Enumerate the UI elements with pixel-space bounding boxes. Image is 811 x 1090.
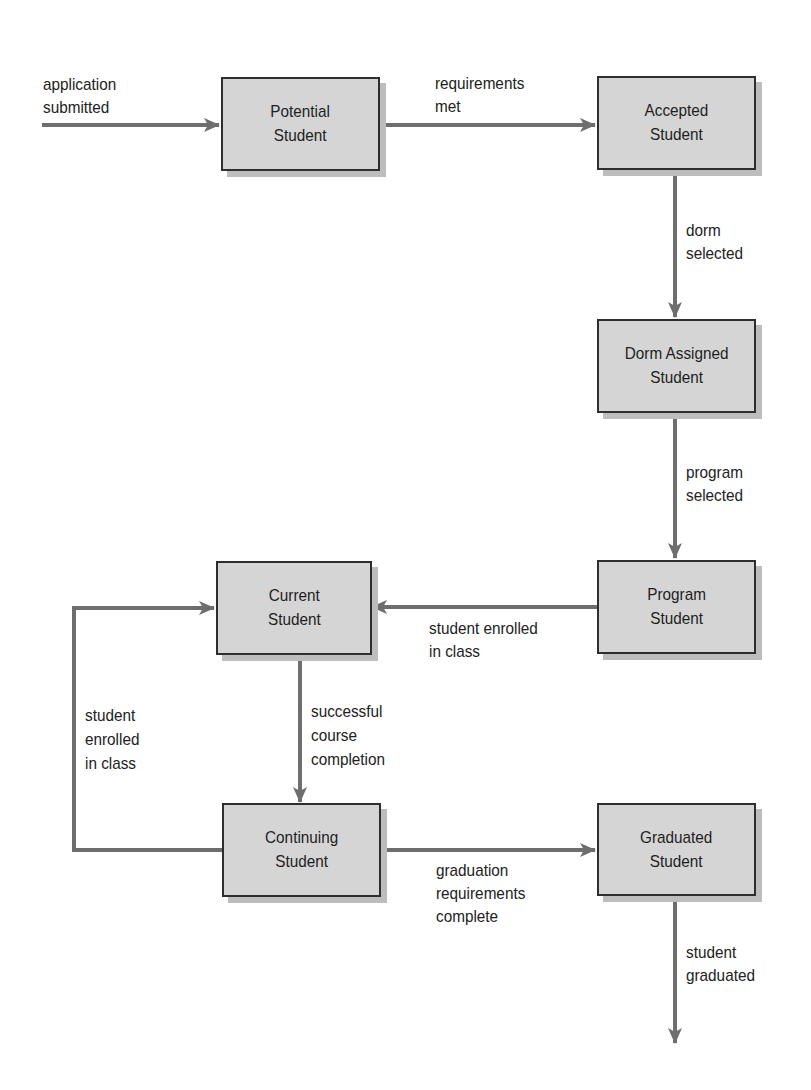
label-loop-student-enrolled: student enrolled in class — [85, 704, 139, 776]
state-graduated-student: Graduated Student — [597, 803, 756, 896]
state-program-student: Program Student — [597, 560, 756, 654]
state-label: Program Student — [647, 583, 706, 631]
state-continuing-student: Continuing Student — [222, 803, 381, 897]
state-potential-student: Potential Student — [221, 77, 380, 171]
label-program-selected: program selected — [686, 461, 743, 507]
state-dorm-assigned-student: Dorm Assigned Student — [597, 319, 756, 413]
label-dorm-selected: dorm selected — [686, 219, 743, 265]
label-successful-course-completion: successful course completion — [311, 700, 385, 772]
label-application-submitted: application submitted — [43, 73, 116, 119]
state-label: Current Student — [268, 584, 321, 632]
state-label: Dorm Assigned Student — [625, 342, 729, 390]
state-label: Potential Student — [271, 100, 331, 148]
label-requirements-met: requirements met — [435, 72, 524, 118]
state-current-student: Current Student — [216, 561, 372, 655]
label-student-enrolled-in-class: student enrolled in class — [429, 617, 538, 663]
label-student-graduated: student graduated — [686, 941, 755, 987]
state-accepted-student: Accepted Student — [597, 76, 756, 170]
state-label: Accepted Student — [645, 99, 709, 147]
label-graduation-requirements-complete: graduation requirements complete — [436, 859, 525, 928]
state-label: Graduated Student — [640, 826, 712, 874]
state-label: Continuing Student — [265, 826, 338, 874]
state-diagram: Potential Student Accepted Student Dorm … — [0, 0, 811, 1090]
